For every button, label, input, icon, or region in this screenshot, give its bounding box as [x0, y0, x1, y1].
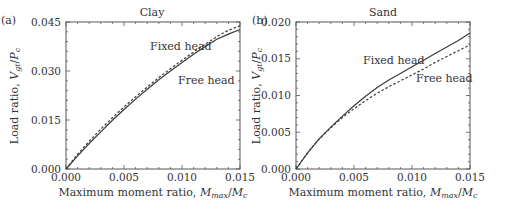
panel-tag-a: (a) [1, 14, 16, 27]
x-tick-label: 0.010 [397, 171, 427, 183]
y-tick-label: 0.045 [31, 16, 61, 28]
chart-panel-sand: (b) Sand 0.020 0.015 0.010 0.005 0.000 0… [250, 6, 485, 200]
figure: (a) Clay 0.045 0.030 0.015 0.000 0.000 0… [0, 0, 505, 209]
chart-title-sand: Sand [369, 6, 397, 19]
chart-panel-clay: (a) Clay 0.045 0.030 0.015 0.000 0.000 0… [1, 6, 255, 200]
x-tick-label: 0.000 [51, 171, 81, 183]
x-tick-label: 0.015 [225, 171, 255, 183]
y-tick-label: 0.030 [31, 65, 61, 77]
x-tick-label: 0.005 [339, 171, 369, 183]
y-tick-label: 0.020 [261, 16, 291, 28]
y-tick-label: 0.015 [261, 52, 291, 64]
x-tick-label: 0.010 [167, 171, 197, 183]
annotation-fixed-head-sand: Fixed head [363, 54, 425, 67]
chart-title-clay: Clay [140, 6, 165, 19]
x-axis-label-sand: Maximum moment ratio, Mmax/Mc [289, 186, 478, 200]
x-tick-label: 0.015 [455, 171, 485, 183]
x-tick-label: 0.000 [281, 171, 311, 183]
y-tick-label: 0.005 [261, 126, 291, 138]
annotation-fixed-head-clay: Fixed head [150, 40, 212, 53]
annotation-free-head-clay: Free head [178, 74, 235, 87]
x-axis-label-clay: Maximum moment ratio, Mmax/Mc [59, 186, 248, 200]
annotation-free-head-sand: Free head [416, 72, 473, 85]
y-tick-label: 0.015 [31, 114, 61, 126]
plot-area-sand [296, 22, 470, 169]
y-tick-label: 0.010 [261, 89, 291, 101]
y-axis-label-sand: Load ratio, Vgt/Pc [250, 47, 264, 144]
x-tick-label: 0.005 [109, 171, 139, 183]
y-axis-label-clay: Load ratio, Vgt/Pc [8, 47, 22, 144]
axes-frame [296, 22, 470, 169]
